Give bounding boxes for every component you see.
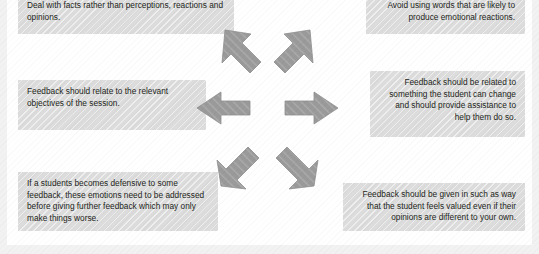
callout-top-right: Avoid using words that are likely to pro… <box>366 0 525 34</box>
callout-bottom-left: If a students becomes defensive to some … <box>18 172 218 231</box>
callout-middle-left: Feedback should relate to the relevant o… <box>18 80 206 130</box>
callout-bottom-right-text: Feedback should be given in such as way … <box>352 189 516 224</box>
callout-top-right-text: Avoid using words that are likely to pro… <box>375 0 515 23</box>
arrow-up-left-icon <box>222 30 261 73</box>
arrow-down-left-icon <box>217 147 259 189</box>
callout-bottom-left-text: If a students becomes defensive to some … <box>27 178 209 224</box>
arrow-left-icon <box>197 92 250 124</box>
arrow-right-icon <box>285 92 338 124</box>
diagram-canvas: Deal with facts rather than perceptions,… <box>0 0 539 254</box>
callout-middle-right: Feedback should be related to something … <box>370 71 525 137</box>
callout-middle-right-text: Feedback should be related to something … <box>379 77 516 123</box>
callout-top-left-text: Deal with facts rather than perceptions,… <box>27 0 225 23</box>
arrow-burst-group <box>195 22 340 194</box>
arrow-down-right-icon <box>276 147 318 189</box>
arrow-burst-svg <box>195 22 340 194</box>
callout-bottom-right: Feedback should be given in such as way … <box>343 183 525 231</box>
arrow-up-right-icon <box>274 30 313 73</box>
callout-middle-left-text: Feedback should relate to the relevant o… <box>27 86 197 109</box>
